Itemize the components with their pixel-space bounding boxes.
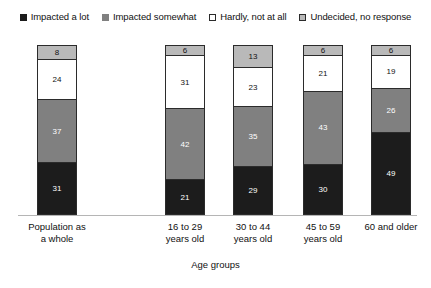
bar-segment-hardly[interactable]: 23	[233, 67, 273, 106]
bar-segment-a-lot[interactable]: 31	[37, 162, 77, 215]
legend-item-undecided-no-response[interactable]: Undecided, no response	[299, 12, 411, 22]
bar-segment-value: 29	[249, 186, 258, 195]
bar-segment-value: 37	[53, 127, 62, 136]
x-tick-label-line2: years old	[277, 233, 369, 245]
bar-segment-a-lot[interactable]: 21	[165, 179, 205, 215]
bar-segment-a-lot[interactable]: 29	[233, 166, 273, 215]
legend-item-hardly-not-at-all[interactable]: Hardly, not at all	[209, 12, 286, 22]
bar-segment-undecided[interactable]: 6	[303, 45, 343, 55]
bar-segment-value: 23	[249, 83, 258, 92]
legend-swatch-hardly-not-at-all-icon	[209, 14, 216, 21]
bar-segment-value: 21	[319, 69, 328, 78]
bar-segment-value: 26	[387, 106, 396, 115]
bar-segment-value: 6	[389, 46, 393, 55]
bar-segment-value: 19	[387, 67, 396, 76]
plot-area: 8 24 37 31 6 31 42 21	[0, 36, 431, 216]
bar-segment-somewhat[interactable]: 35	[233, 106, 273, 166]
bar-segment-value: 35	[249, 132, 258, 141]
bar-segment-a-lot[interactable]: 49	[371, 132, 411, 215]
bar-segment-somewhat[interactable]: 43	[303, 91, 343, 164]
bar-segment-value: 24	[53, 75, 62, 84]
bar-segment-value: 43	[319, 123, 328, 132]
bar-population-as-a-whole[interactable]: 8 24 37 31	[37, 45, 77, 215]
bar-segment-value: 31	[53, 184, 62, 193]
bar-segment-a-lot[interactable]: 30	[303, 164, 343, 215]
legend-label-impacted-somewhat: Impacted somewhat	[113, 12, 196, 22]
bar-segment-value: 8	[55, 48, 59, 57]
x-tick-label-line2: a whole	[11, 233, 103, 245]
bar-segment-somewhat[interactable]: 37	[37, 99, 77, 162]
x-tick-label-60-and-older: 60 and older	[345, 221, 431, 233]
bar-segment-hardly[interactable]: 24	[37, 59, 77, 100]
x-axis-baseline	[18, 215, 417, 216]
legend-label-hardly-not-at-all: Hardly, not at all	[220, 12, 286, 22]
x-tick-label-line1: Population as	[11, 221, 103, 233]
legend-item-impacted-somewhat[interactable]: Impacted somewhat	[102, 12, 196, 22]
bar-60-and-older[interactable]: 6 19 26 49	[371, 45, 411, 215]
bar-segment-value: 30	[319, 185, 328, 194]
bar-segment-somewhat[interactable]: 42	[165, 108, 205, 179]
bar-segment-undecided[interactable]: 6	[371, 45, 411, 55]
legend-item-impacted-a-lot[interactable]: Impacted a lot	[20, 12, 89, 22]
bar-segment-value: 42	[181, 140, 190, 149]
legend-swatch-impacted-a-lot-icon	[20, 14, 27, 21]
bar-segment-value: 6	[321, 46, 325, 55]
chart-legend: Impacted a lot Impacted somewhat Hardly,…	[0, 12, 431, 22]
bar-45-to-59-years-old[interactable]: 6 21 43 30	[303, 45, 343, 215]
legend-label-undecided-no-response: Undecided, no response	[310, 12, 411, 22]
bar-segment-value: 49	[387, 169, 396, 178]
bar-16-to-29-years-old[interactable]: 6 31 42 21	[165, 45, 205, 215]
bar-segment-undecided[interactable]: 13	[233, 45, 273, 67]
bar-30-to-44-years-old[interactable]: 13 23 35 29	[233, 45, 273, 215]
bar-segment-value: 21	[181, 193, 190, 202]
bar-segment-value: 31	[181, 78, 190, 87]
bar-segment-somewhat[interactable]: 26	[371, 88, 411, 132]
bar-segment-undecided[interactable]: 6	[165, 45, 205, 55]
bar-segment-value: 6	[183, 46, 187, 55]
bar-segment-hardly[interactable]: 21	[303, 55, 343, 91]
x-tick-label-line1: 60 and older	[345, 221, 431, 233]
x-axis-title: Age groups	[0, 259, 431, 270]
legend-swatch-impacted-somewhat-icon	[102, 14, 109, 21]
bar-segment-hardly[interactable]: 19	[371, 55, 411, 87]
x-tick-label-population-as-a-whole: Population as a whole	[11, 221, 103, 244]
legend-swatch-undecided-no-response-icon	[299, 14, 306, 21]
legend-label-impacted-a-lot: Impacted a lot	[31, 12, 89, 22]
bar-segment-hardly[interactable]: 31	[165, 55, 205, 108]
bar-segment-undecided[interactable]: 8	[37, 45, 77, 59]
bar-segment-value: 13	[249, 52, 258, 61]
stacked-bar-chart: Impacted a lot Impacted somewhat Hardly,…	[0, 0, 431, 288]
